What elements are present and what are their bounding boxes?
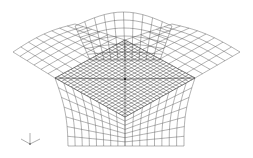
- left-wing-v-line: [27, 29, 92, 60]
- right-wall-v-line: [125, 97, 189, 125]
- left-wall-u-line: [55, 78, 68, 146]
- center-node: [124, 78, 126, 80]
- axis-x-line: [21, 139, 30, 144]
- xyz-axis-triad-icon: [21, 133, 40, 145]
- right-wall-u-line: [184, 78, 195, 146]
- dense-square-diagonal: [55, 78, 125, 79]
- axis-y-line: [30, 139, 40, 144]
- left-wall-v-line: [62, 97, 125, 125]
- axis-origin: [29, 143, 31, 145]
- mesh-figure: [0, 0, 253, 158]
- right-wall-v-line: [125, 117, 185, 134]
- left-wing-v-line: [41, 35, 108, 70]
- mesh-canvas: [0, 0, 253, 158]
- dense-square-diagonal: [125, 78, 195, 79]
- left-wall-v-line: [66, 117, 125, 134]
- right-wall-v-line: [125, 107, 187, 129]
